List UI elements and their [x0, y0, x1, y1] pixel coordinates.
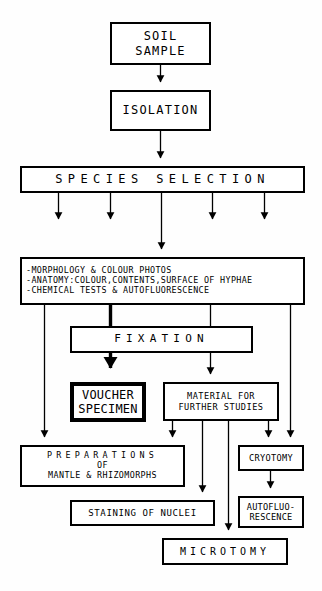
node-preparations-line3: MANTLE & RHIZOMORPHS — [48, 471, 157, 481]
node-isolation-label: ISOLATION — [123, 103, 199, 117]
node-material-for-further-studies: MATERIAL FOR FURTHER STUDIES — [163, 382, 279, 421]
node-preparations: PREPARATIONS OF MANTLE & RHIZOMORPHS — [20, 445, 185, 487]
node-staining-of-nuclei-label: STAINING OF NUCLEI — [88, 508, 196, 519]
node-fixation-label: FIXATION — [114, 333, 209, 346]
node-isolation: ISOLATION — [110, 90, 211, 131]
node-autofluorescence: AUTOFLUO- RESCENCE — [238, 496, 304, 528]
node-species-selection-label: SPECIES SELECTION — [55, 172, 270, 186]
node-microtomy-label: MICROTOMY — [180, 546, 270, 558]
node-voucher-specimen-line1: VOUCHER — [82, 388, 134, 402]
node-soil-sample-line1: SOIL — [144, 29, 178, 43]
node-voucher-specimen-line2: SPECIMEN — [78, 402, 137, 416]
node-microtomy: MICROTOMY — [162, 538, 288, 565]
node-material-line2: FURTHER STUDIES — [178, 402, 263, 412]
node-cryotomy: CRYOTOMY — [238, 445, 304, 471]
node-cryotomy-label: CRYOTOMY — [249, 453, 293, 463]
node-staining-of-nuclei: STAINING OF NUCLEI — [70, 500, 215, 526]
node-soil-sample: SOIL SAMPLE — [110, 22, 211, 65]
node-voucher-specimen: VOUCHER SPECIMEN — [70, 382, 146, 422]
flowchart-canvas: SOIL SAMPLE ISOLATION SPECIES SELECTION … — [0, 0, 322, 591]
node-autofluorescence-line1: AUTOFLUO- — [247, 502, 295, 512]
node-fixation: FIXATION — [70, 326, 253, 353]
node-species-selection: SPECIES SELECTION — [20, 166, 305, 193]
node-soil-sample-line2: SAMPLE — [135, 44, 186, 58]
node-observations-line3: -CHEMICAL TESTS & AUTOFLUORESCENCE — [26, 286, 209, 296]
node-autofluorescence-line2: RESCENCE — [250, 512, 293, 522]
node-material-line1: MATERIAL FOR — [187, 391, 255, 401]
node-observations: -MORPHOLOGY & COLOUR PHOTOS -ANATOMY:COL… — [20, 257, 305, 305]
